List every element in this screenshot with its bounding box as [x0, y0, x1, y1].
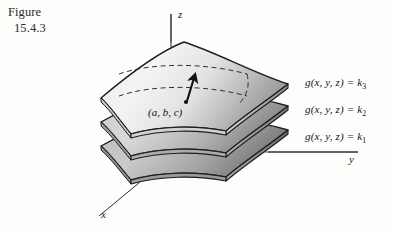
- level-surface-label-k1-subscript: 1: [362, 136, 366, 145]
- level-surface-label-k1: g(x, y, z) = k1: [305, 130, 366, 142]
- diagram-canvas: [0, 0, 394, 234]
- level-surfaces-figure: Figure 15.4.3: [0, 0, 394, 234]
- z-axis-label: z: [178, 8, 182, 20]
- level-surface-label-k3-subscript: 3: [362, 82, 366, 91]
- level-surface-label-k2-text: g(x, y, z) = k: [305, 103, 362, 115]
- level-surface-label-k2-subscript: 2: [362, 109, 366, 118]
- level-surface-label-k3-text: g(x, y, z) = k: [305, 76, 362, 88]
- point-marker: [184, 100, 188, 104]
- level-surface-label-k3: g(x, y, z) = k3: [305, 76, 366, 88]
- x-axis-label: x: [101, 208, 106, 220]
- level-surface-label-k2: g(x, y, z) = k2: [305, 103, 366, 115]
- point-abc-label: (a, b, c): [148, 106, 182, 118]
- y-axis-label: y: [349, 153, 354, 165]
- level-surface-label-k1-text: g(x, y, z) = k: [305, 130, 362, 142]
